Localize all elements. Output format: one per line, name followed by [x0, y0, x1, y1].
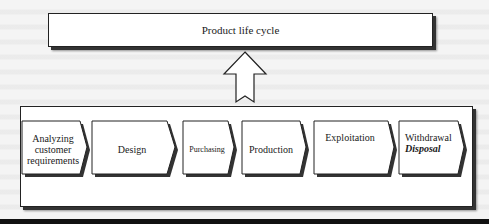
step-purchasing: Purchasing [183, 121, 237, 177]
step-label-line: Exploitation [325, 132, 374, 143]
step-withdrawal-disposal: Withdrawal Disposal [399, 121, 467, 177]
product-life-cycle-title-box: Product life cycle [48, 13, 433, 47]
step-label: Design [92, 121, 172, 177]
step-label: Exploitation [314, 121, 386, 177]
step-exploitation: Exploitation [314, 121, 397, 177]
step-label-line: Design [118, 144, 146, 155]
step-design: Design [92, 121, 178, 177]
step-label-line: customer [35, 144, 72, 155]
step-analyzing-customer-requirements: Analyzing customer requirements [22, 121, 90, 177]
step-label-line: Production [249, 144, 293, 155]
step-label-line: Withdrawal [405, 132, 452, 143]
step-production: Production [242, 121, 309, 177]
step-label-line: requirements [27, 155, 79, 166]
step-label-line: Purchasing [189, 144, 225, 155]
step-label: Analyzing customer requirements [22, 121, 84, 177]
step-label: Purchasing [183, 121, 231, 177]
diagram-title: Product life cycle [202, 24, 280, 36]
up-arrow-icon [222, 50, 268, 104]
step-label-emphasis: Disposal [405, 143, 441, 154]
step-label: Withdrawal Disposal [399, 121, 457, 177]
bottom-border-bar [0, 219, 489, 224]
step-label-line: Analyzing [32, 133, 74, 144]
step-label: Production [242, 121, 300, 177]
